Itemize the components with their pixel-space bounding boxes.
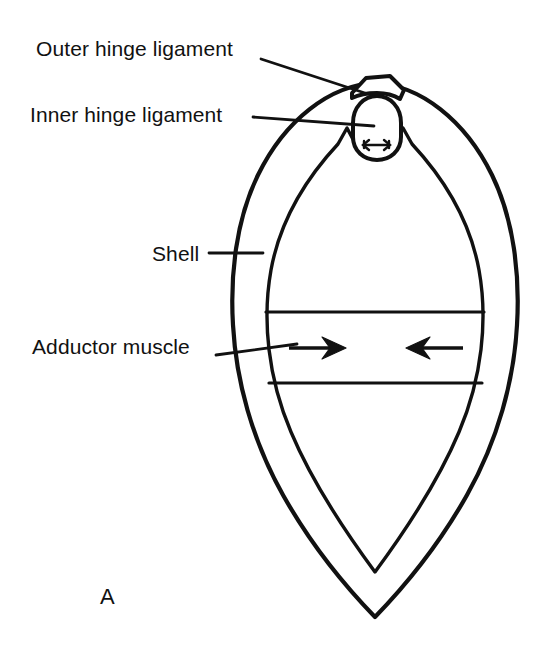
label-shell: Shell	[152, 243, 199, 264]
adductor-arrow-left-icon	[406, 337, 463, 359]
bivalve-diagram	[0, 0, 544, 668]
adductor-arrow-right-icon	[289, 337, 346, 359]
figure-panel: Outer hinge ligament Inner hinge ligamen…	[0, 0, 544, 668]
leader-line-adductor	[216, 344, 297, 355]
panel-letter: A	[100, 586, 115, 608]
label-adductor-muscle: Adductor muscle	[32, 336, 190, 357]
inner-hinge-ligament-capsule	[353, 96, 401, 160]
label-outer-hinge-ligament: Outer hinge ligament	[36, 38, 233, 59]
inner-shell-outline	[267, 128, 483, 572]
label-inner-hinge-ligament: Inner hinge ligament	[30, 104, 222, 125]
leader-line-outer-hinge	[261, 59, 371, 95]
outer-shell-outline	[232, 83, 517, 617]
